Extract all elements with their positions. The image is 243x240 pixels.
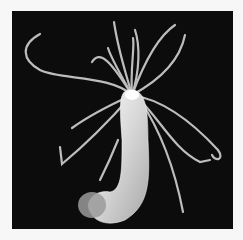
hydra-photo (12, 11, 233, 229)
hydra-bud (78, 192, 106, 218)
hydra-hypostome (125, 90, 139, 100)
hydra-illustration (12, 11, 233, 229)
